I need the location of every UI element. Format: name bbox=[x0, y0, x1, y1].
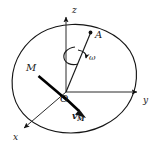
velocity-subscript: M bbox=[76, 115, 85, 123]
axis-point-A-dot bbox=[89, 31, 93, 35]
body-point-M-label: M bbox=[25, 62, 37, 73]
rotating-body-figure: z y x O A ω M vM bbox=[0, 0, 162, 154]
y-axis-label: y bbox=[142, 95, 149, 105]
axis-point-A-label: A bbox=[94, 29, 102, 40]
origin-label: O bbox=[60, 93, 68, 104]
figure-canvas: z y x O A ω M vM bbox=[0, 0, 162, 154]
angular-velocity-label: ω bbox=[89, 53, 96, 62]
x-axis-label: x bbox=[13, 132, 18, 142]
angular-velocity-arc-arrow bbox=[64, 47, 86, 65]
z-axis-label: z bbox=[71, 5, 77, 15]
